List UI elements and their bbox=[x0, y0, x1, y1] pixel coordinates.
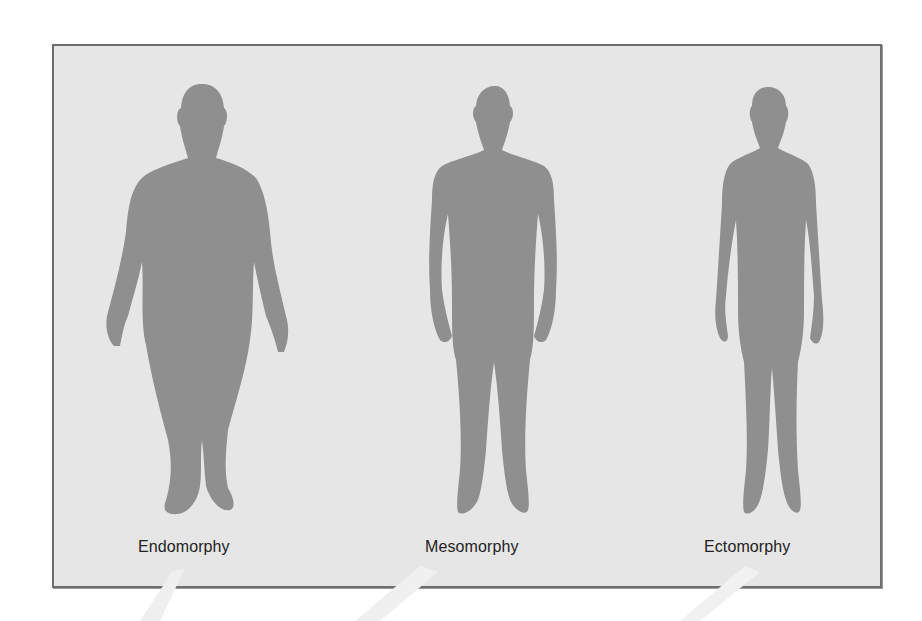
body-type-figures bbox=[0, 0, 922, 621]
ectomorphy-silhouette-icon bbox=[715, 87, 823, 514]
mesomorphy-label: Mesomorphy bbox=[425, 538, 518, 556]
ectomorphy-label: Ectomorphy bbox=[704, 538, 790, 556]
endomorphy-silhouette-icon bbox=[106, 84, 288, 514]
endomorphy-label: Endomorphy bbox=[138, 538, 230, 556]
mesomorphy-silhouette-icon bbox=[429, 86, 557, 514]
